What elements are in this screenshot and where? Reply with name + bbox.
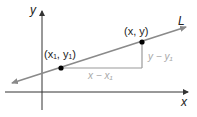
y-axis-label: y — [30, 3, 36, 17]
x-axis-label: x — [181, 95, 187, 109]
point-x1-y1-dot — [58, 65, 63, 70]
line-label: L — [178, 14, 185, 28]
horizontal-leg-label: x − x₁ — [88, 70, 113, 81]
point-x1-y1-label: (x₁, y₁) — [44, 48, 76, 60]
point-x-y-dot — [139, 39, 144, 44]
vertical-leg-label: y − y₁ — [148, 51, 173, 62]
point-x-y-label: (x, y) — [124, 25, 148, 37]
